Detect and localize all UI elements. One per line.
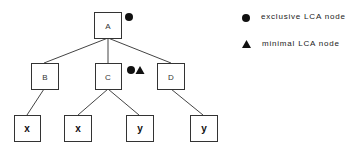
node-b-label: B (42, 73, 47, 82)
exclusive-marker-a-icon (125, 13, 133, 21)
node-a-label: A (105, 22, 111, 31)
edge-c-x (78, 89, 108, 115)
node-y2-label: y (201, 123, 207, 134)
exclusive-marker-c-icon (127, 66, 135, 74)
edge-a-b (44, 38, 108, 63)
legend-triangle-icon (242, 40, 251, 48)
legend-minimal-label: minimal LCA node (262, 39, 340, 48)
node-x2-label: x (75, 123, 81, 134)
minimal-marker-c-icon (136, 66, 145, 74)
edge-b-x (27, 89, 44, 115)
legend-circle-icon (242, 14, 250, 22)
node-d-label: D (168, 73, 174, 82)
node-c-label: C (105, 73, 111, 82)
node-y1-label: y (137, 123, 143, 134)
edge-c-y (108, 89, 139, 115)
edge-d-y (171, 89, 203, 115)
lca-tree-diagram: A B C D x x y y (0, 0, 355, 151)
legend-exclusive-label: exclusive LCA node (261, 12, 346, 21)
edge-a-d (108, 38, 171, 63)
node-x1-label: x (24, 123, 30, 134)
